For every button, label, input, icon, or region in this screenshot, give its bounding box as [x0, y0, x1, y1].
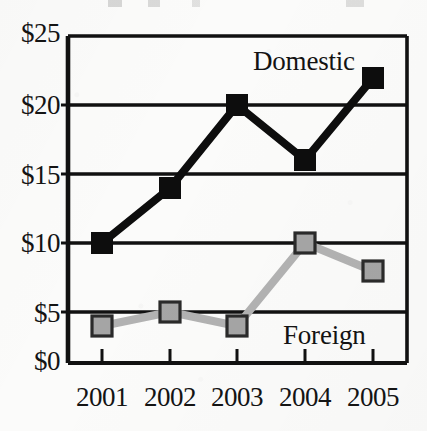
y-axis-tick-label-10: $10	[4, 230, 60, 257]
foreign-marker-2005	[363, 261, 383, 281]
series-label-foreign: Foreign	[283, 322, 366, 349]
domestic-marker-2002	[160, 178, 180, 198]
y-axis-tick-label-20: $20	[4, 92, 60, 119]
series-label-domestic: Domestic	[253, 48, 355, 75]
foreign-marker-2002	[160, 302, 180, 322]
chart-plot-svg	[0, 0, 427, 431]
x-axis-tick-label-2005: 2005	[333, 384, 413, 411]
domestic-marker-2004	[295, 150, 315, 170]
foreign-marker-2003	[227, 316, 247, 336]
y-axis-tick-label-5: $5	[4, 300, 60, 327]
domestic-marker-2003	[227, 95, 247, 115]
gridlines	[68, 105, 407, 312]
y-axis-tick-label-15: $15	[4, 162, 60, 189]
foreign-marker-2004	[295, 233, 315, 253]
domestic-marker-2005	[363, 68, 383, 88]
foreign-marker-2001	[92, 316, 112, 336]
y-axis-tick-label-25: $25	[4, 20, 60, 47]
y-axis-tick-label-0: $0	[4, 348, 60, 375]
domestic-marker-2001	[92, 233, 112, 253]
series-domestic	[92, 68, 383, 253]
chart-container: $25 $20 $15 $10 $5 $0 2001 2002 2003 200…	[0, 0, 427, 431]
plot-border	[68, 36, 407, 363]
